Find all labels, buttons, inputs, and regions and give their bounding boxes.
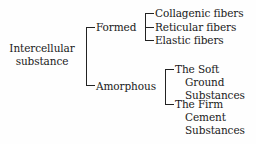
formed-bracket-tick-2 (145, 27, 154, 28)
amorphous-bracket-vertical (165, 69, 166, 104)
amorphous-bracket-tick-2 (165, 104, 174, 105)
amorphous-firm-line2: Cement (185, 111, 226, 123)
amorphous-soft-line2: Ground (185, 76, 224, 88)
formed-item-collagenic: Collagenic fibers (155, 7, 244, 19)
branch-formed-label: Formed (96, 21, 136, 33)
main-bracket-top-tick (86, 27, 95, 28)
formed-item-elastic: Elastic fibers (155, 34, 224, 46)
intercellular-substance-diagram: Intercellular substance Formed Amorphous… (0, 0, 256, 144)
main-bracket-bottom-tick (86, 85, 95, 86)
formed-item-reticular: Reticular fibers (155, 21, 236, 33)
branch-amorphous-label: Amorphous (96, 80, 156, 92)
root-label-line1: Intercellular (4, 42, 80, 54)
root-label-line2: substance (4, 55, 80, 67)
amorphous-soft-line1: The Soft (175, 63, 219, 75)
amorphous-bracket-tick-1 (165, 69, 174, 70)
main-bracket-vertical (86, 27, 87, 85)
amorphous-firm-line3: Substances (185, 124, 245, 136)
formed-bracket-tick-3 (145, 40, 154, 41)
formed-bracket-tick-1 (145, 13, 154, 14)
amorphous-firm-line1: The Firm (175, 98, 223, 110)
